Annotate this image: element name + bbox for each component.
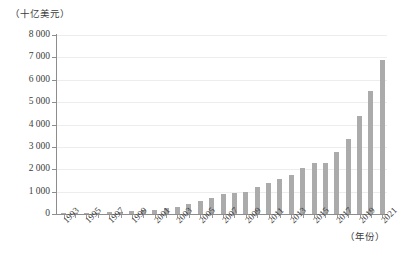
y-tick-mark <box>52 57 56 58</box>
x-tick-mark <box>348 215 349 218</box>
y-tick-mark <box>52 102 56 103</box>
bar-chart: （十亿美元） 8 0007 0006 0005 0004 0003 0002 0… <box>0 0 402 263</box>
bar <box>289 175 294 214</box>
bar <box>243 192 248 214</box>
bar <box>266 183 271 214</box>
y-tick-mark <box>52 125 56 126</box>
y-tick-mark <box>52 214 56 215</box>
y-tick-label: 7 000 <box>0 52 50 62</box>
y-tick-mark <box>52 80 56 81</box>
y-tick-mark <box>52 35 56 36</box>
y-axis-unit-label: （十亿美元） <box>10 6 70 20</box>
y-tick-label: 4 000 <box>0 120 50 130</box>
x-tick-mark <box>143 215 144 218</box>
x-tick-mark <box>257 215 258 218</box>
x-tick-mark <box>189 215 190 218</box>
y-tick-mark <box>52 192 56 193</box>
y-tick-label: 0 <box>0 209 50 219</box>
y-tick-label: 6 000 <box>0 75 50 85</box>
y-tick-mark <box>52 147 56 148</box>
bar <box>334 152 339 214</box>
bar <box>312 163 317 214</box>
x-tick-mark <box>212 215 213 218</box>
x-tick-mark <box>371 215 372 218</box>
x-tick-mark <box>303 215 304 218</box>
y-tick-label: 5 000 <box>0 97 50 107</box>
x-tick-mark <box>166 215 167 218</box>
y-tick-mark <box>52 169 56 170</box>
x-tick-mark <box>98 215 99 218</box>
bar <box>357 116 362 214</box>
bar <box>221 194 226 214</box>
x-axis-unit-label: （年份） <box>345 229 385 243</box>
y-tick-label: 3 000 <box>0 142 50 152</box>
y-tick-label: 8 000 <box>0 30 50 40</box>
x-tick-mark <box>75 215 76 218</box>
x-tick-mark <box>234 215 235 218</box>
y-tick-label: 2 000 <box>0 164 50 174</box>
y-tick-label: 1 000 <box>0 187 50 197</box>
bar-series <box>57 35 387 214</box>
x-tick-mark <box>325 215 326 218</box>
x-tick-mark <box>280 215 281 218</box>
bar <box>380 60 385 214</box>
x-tick-mark <box>121 215 122 218</box>
bar <box>368 91 373 214</box>
bar <box>346 139 351 214</box>
